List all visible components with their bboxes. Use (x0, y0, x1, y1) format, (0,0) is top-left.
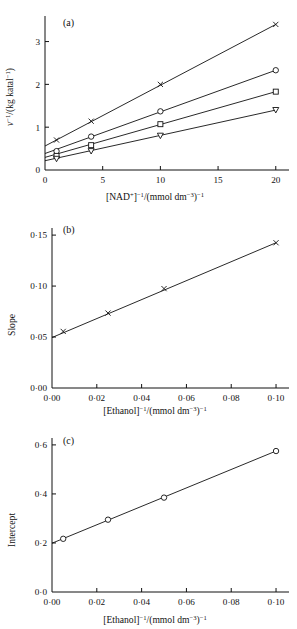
panel-c-ticks (52, 445, 276, 592)
c-xlabel-mid: /(mmol dm (147, 614, 190, 626)
panel-c: 0·000·020·040·060·080·100·00·20·40·6 (c)… (0, 420, 297, 629)
xtick-label: 0·10 (268, 597, 285, 607)
series-line-ethanol-inverse-0.100 (45, 24, 276, 146)
xlabel-close-sup: −1 (197, 191, 204, 198)
panel-c-axes (52, 438, 289, 592)
ytick-label: 1 (35, 123, 40, 133)
panel-b-ylabel: Slope (6, 314, 17, 336)
svg-text:v−1/(kg katal−1): v−1/(kg katal−1) (4, 68, 16, 126)
xtick-label: 0·02 (88, 597, 105, 607)
xtick-label: 0·06 (178, 393, 195, 403)
xtick-label: 15 (213, 175, 223, 185)
panel-b-ylabel-text: Slope (6, 314, 17, 336)
xtick-label: 0·06 (178, 597, 195, 607)
panel-c-ylabel: Intercept (6, 513, 17, 547)
panel-c-xlabel: [Ethanol]−1/(mmol dm−3)−1 (103, 614, 206, 626)
xtick-label: 0·02 (88, 393, 105, 403)
panel-a-series (45, 24, 276, 160)
ylabel-close: ) (4, 68, 16, 71)
ytick-label: 3 (35, 37, 40, 47)
xtick-label: 0·04 (133, 597, 150, 607)
ylabel-rest: /(kg katal (4, 78, 16, 115)
b-xlabel-lead: [Ethanol] (103, 405, 139, 416)
panel-b: 0·000·020·040·060·080·100·000·050·100·15… (0, 208, 297, 420)
panel-b-tick-labels: 0·000·020·040·060·080·100·000·050·100·15 (30, 230, 285, 403)
figure-root: 051015200123 (a) v−1/(kg katal−1) [NAD+]… (0, 0, 297, 629)
ylabel-v-sup: −1 (4, 115, 11, 122)
panel-a: 051015200123 (a) v−1/(kg katal−1) [NAD+]… (0, 0, 297, 210)
b-xlabel-mid: /(mmol dm (147, 405, 190, 417)
panel-a-markers (54, 22, 279, 162)
b-xlabel-lead-sup: −1 (140, 405, 147, 412)
c-xlabel-close-sup: −1 (200, 614, 207, 621)
ytick-label: 0·2 (35, 538, 48, 548)
panel-c-ylabel-text: Intercept (6, 513, 17, 547)
xlabel-mid: /(mmol dm (144, 191, 187, 203)
xtick-label: 20 (271, 175, 281, 185)
panel-b-canvas: 0·000·020·040·060·080·100·000·050·100·15… (0, 208, 297, 420)
panel-b-series (52, 243, 276, 338)
xtick-label: 0·08 (223, 393, 240, 403)
panel-a-canvas: 051015200123 (a) v−1/(kg katal−1) [NAD+]… (0, 0, 297, 210)
xtick-label: 0·08 (223, 597, 240, 607)
series-markers-ethanol-inverse-0.050 (54, 68, 279, 154)
ytick-label: 0·05 (30, 332, 47, 342)
xlabel-mid-sup: −1 (137, 191, 144, 198)
ytick-label: 0·10 (30, 281, 47, 291)
panel-b-ticks (52, 235, 276, 388)
ytick-label: 0·4 (35, 489, 48, 499)
xtick-label: 0·10 (268, 393, 285, 403)
panel-a-xlabel: [NAD+]−1/(mmol dm−3)−1 (106, 191, 204, 203)
xtick-label: 0·00 (44, 597, 61, 607)
ylabel-rest-sup: −1 (4, 71, 11, 78)
xtick-label: 10 (156, 175, 166, 185)
c-xlabel-lead-sup: −1 (140, 614, 147, 621)
series-line-slope-replot (52, 243, 276, 338)
xtick-label: 0·04 (133, 393, 150, 403)
series-markers-ethanol-inverse-0.005 (54, 108, 279, 162)
ytick-label: 0·15 (30, 230, 47, 240)
panel-b-label: (b) (63, 224, 75, 236)
xlabel-lead: [NAD (106, 191, 130, 202)
b-xlabel-close-sup: −1 (200, 405, 207, 412)
ytick-label: 0·6 (35, 440, 48, 450)
ytick-label: 2 (35, 80, 40, 90)
c-xlabel-lead: [Ethanol] (103, 614, 139, 625)
panel-c-tick-labels: 0·000·020·040·060·080·100·00·20·40·6 (35, 440, 285, 607)
ytick-label: 0·00 (30, 383, 47, 393)
panel-a-ylabel: v−1/(kg katal−1) (4, 68, 16, 126)
xtick-label: 0·00 (44, 393, 61, 403)
xtick-label: 5 (100, 175, 105, 185)
ytick-label: 0 (35, 165, 40, 175)
panel-c-label: (c) (63, 435, 74, 447)
ytick-label: 0·0 (35, 587, 48, 597)
panel-a-label: (a) (63, 17, 74, 29)
panel-a-ticks (45, 42, 276, 170)
panel-b-xlabel: [Ethanol]−1/(mmol dm−3)−1 (103, 405, 206, 417)
panel-c-canvas: 0·000·020·040·060·080·100·00·20·40·6 (c)… (0, 420, 297, 629)
xtick-label: 0 (43, 175, 48, 185)
